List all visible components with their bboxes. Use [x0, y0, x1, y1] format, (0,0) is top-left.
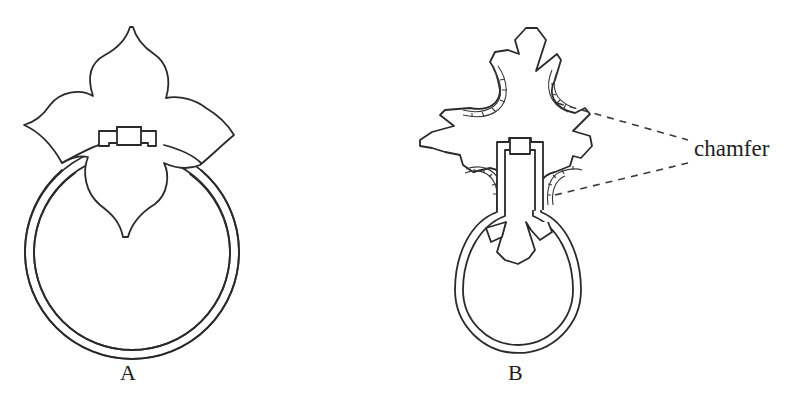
chamfer-pointer-lower — [555, 163, 688, 195]
figure-label-a: A — [120, 360, 136, 386]
chamfer-annotation-label: chamfer — [694, 136, 769, 162]
diagram-canvas — [0, 0, 797, 396]
bail-knuckle-b — [510, 138, 530, 154]
figure-b — [420, 28, 592, 353]
figure-label-b: B — [508, 360, 523, 386]
figure-a — [24, 27, 239, 359]
bail-knuckle-a — [117, 127, 141, 145]
